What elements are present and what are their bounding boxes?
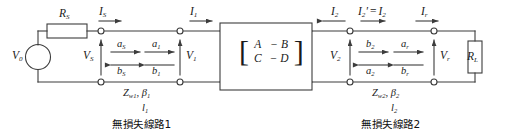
line2-length-label: l2 bbox=[391, 103, 397, 114]
line2-caption: 無損失線路2 bbox=[361, 119, 421, 130]
wave-label-a-r: ar bbox=[401, 39, 409, 50]
wave-label-b-s: bS bbox=[117, 66, 126, 77]
wave-label-b-1: b1 bbox=[152, 66, 161, 77]
series-resistor-label: RS bbox=[59, 8, 70, 21]
line1-caption: 無損失線路1 bbox=[112, 119, 172, 130]
matrix-cell-a: A bbox=[250, 37, 266, 51]
two-port-matrix: [ A − B ] C − D bbox=[238, 37, 305, 65]
node-load-bottom bbox=[431, 79, 437, 85]
source-voltage-label: V0 bbox=[12, 50, 23, 63]
voltage-label-vs: VS bbox=[83, 50, 94, 63]
node-load-top bbox=[431, 28, 437, 34]
line1-length-label: l1 bbox=[142, 103, 148, 114]
node-source-top bbox=[98, 28, 104, 34]
voltage-label-vr: Vr bbox=[440, 50, 450, 63]
series-resistor-body bbox=[47, 24, 87, 38]
wave-label-a-1: a1 bbox=[152, 39, 161, 50]
node-port1-top bbox=[177, 28, 183, 34]
node-port1-bottom bbox=[177, 79, 183, 85]
voltage-label-v2: V2 bbox=[330, 50, 341, 63]
current-label-is: IS bbox=[99, 6, 106, 19]
diagram-lines bbox=[0, 0, 507, 138]
load-resistor-label: RL bbox=[467, 51, 478, 64]
line2-params-label: Zw2, β2 bbox=[372, 88, 399, 99]
current-label-i1: I1 bbox=[190, 6, 197, 19]
voltage-source-symbol bbox=[26, 45, 51, 70]
node-port2-top bbox=[347, 28, 353, 34]
wave-label-b-r: br bbox=[401, 66, 409, 77]
wave-label-a-2: a2 bbox=[366, 66, 375, 77]
circuit-diagram: V0 RS IS I1 I2 I2′=I2 Ir VS V1 V2 Vr aS … bbox=[0, 0, 507, 138]
current-label-i2: I2 bbox=[331, 6, 338, 19]
voltage-label-v1: V1 bbox=[186, 50, 197, 63]
matrix-bracket-right: ] bbox=[293, 37, 305, 65]
node-port2-bottom bbox=[347, 79, 353, 85]
matrix-bracket-left: [ bbox=[238, 37, 250, 65]
matrix-cell-b: − B bbox=[266, 37, 293, 51]
current-label-ir: Ir bbox=[421, 6, 428, 19]
node-source-bottom bbox=[98, 79, 104, 85]
line1-params-label: Zw1, β1 bbox=[123, 88, 150, 99]
matrix-cell-d: − D bbox=[266, 51, 293, 65]
wave-label-b-2: b2 bbox=[366, 39, 375, 50]
current-label-i2-prime: I2′=I2 bbox=[358, 6, 386, 19]
matrix-cell-c: C bbox=[250, 51, 266, 65]
wave-label-a-s: aS bbox=[117, 39, 126, 50]
